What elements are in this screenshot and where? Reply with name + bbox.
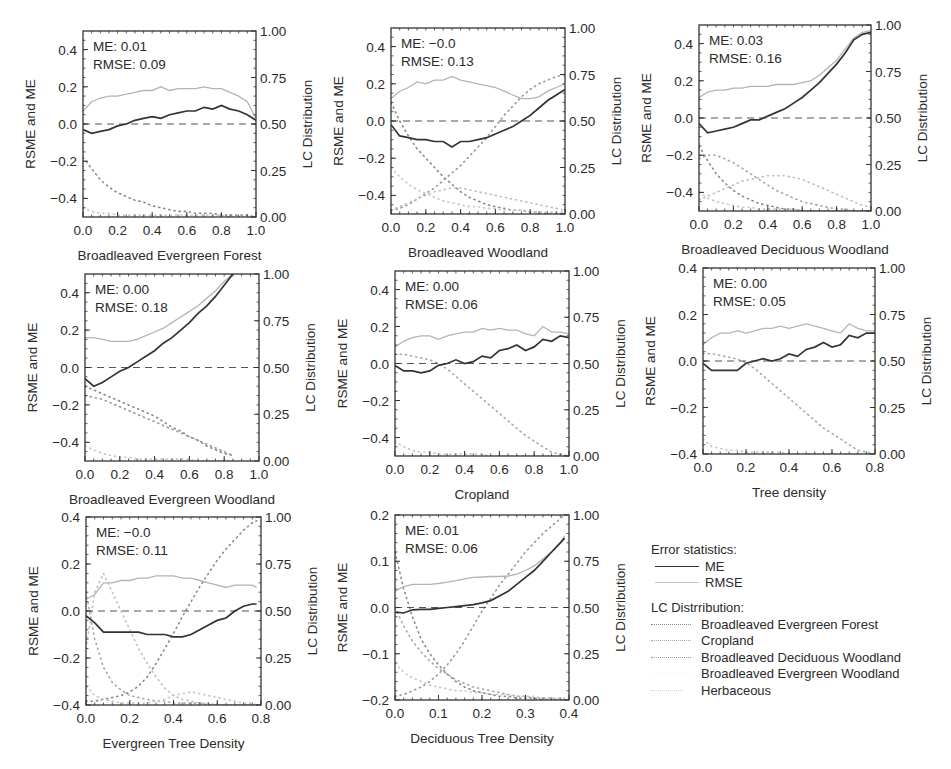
legend-item-lc-evergreen-forest: Broadleaved Evergreen Forest	[651, 616, 951, 633]
lc-distribution-line	[395, 354, 569, 456]
legend-label-lc: Cropland	[701, 632, 754, 649]
x-tick-label: 0.0	[690, 217, 709, 232]
y-tick-label: −0.2	[362, 394, 389, 409]
rmse-annotation: RMSE: 0.05	[713, 294, 786, 309]
x-tick-label: 0.4	[455, 462, 474, 477]
me-annotation: ME: 0.00	[713, 276, 767, 291]
x-tick-label: 0.0	[386, 462, 405, 477]
rmse-line	[703, 324, 875, 345]
y-tick-label: 0.2	[678, 308, 697, 323]
y-tick-label: 0.4	[366, 40, 385, 55]
y2-tick-label: 0.00	[265, 698, 291, 713]
legend-item-rmse: RMSE	[651, 575, 951, 592]
chart-panel-p5: 0.00.20.40.60.81.00.40.20.0−0.2−0.41.000…	[335, 264, 628, 502]
me-annotation: ME: 0.03	[709, 33, 763, 48]
x-tick-label: 0.4	[758, 217, 777, 232]
lc-distribution-line	[699, 176, 871, 208]
y-axis-label: RSME and ME	[331, 76, 346, 165]
x-tick-label: 0.6	[208, 711, 227, 726]
y-tick-label: 0.4	[60, 286, 79, 301]
x-tick-label: 0.4	[145, 467, 164, 482]
y-axis-label: RSME and ME	[639, 73, 654, 162]
lc-distribution-line	[699, 155, 871, 211]
y-tick-label: 0.0	[370, 357, 389, 372]
me-annotation: ME: 0.01	[405, 523, 459, 538]
x-tick-label: 0.6	[823, 460, 842, 475]
x-axis-label: Cropland	[455, 487, 510, 502]
rmse-line	[86, 576, 257, 600]
x-axis-label: Broadleaved Evergreen Woodland	[69, 492, 275, 507]
x-tick-label: 0.8	[866, 460, 885, 475]
y2-tick-label: 0.25	[573, 647, 599, 662]
plot-area	[703, 324, 875, 454]
y-tick-label: −0.4	[670, 447, 697, 462]
y-tick-label: 0.2	[370, 508, 389, 523]
legend-label-lc: Broadleaved Evergreen Forest	[701, 616, 878, 633]
y-tick-label: −0.2	[666, 148, 693, 163]
y-tick-label: 0.2	[60, 323, 79, 338]
lc-distribution-line	[699, 192, 871, 211]
y2-tick-label: 1.00	[573, 264, 599, 279]
me-annotation: ME: −0.0	[96, 525, 150, 540]
y2-tick-label: 0.50	[879, 354, 905, 369]
y-tick-label: 0.0	[366, 114, 385, 129]
lc-distribution-line	[391, 102, 565, 214]
chart-panel-p1: 0.00.20.40.60.81.00.40.20.0−0.2−0.41.000…	[23, 24, 315, 263]
legend-item-me: ME	[651, 558, 951, 575]
y2-tick-label: 0.25	[569, 161, 595, 176]
chart-panel-p3: 0.00.20.40.60.81.00.40.20.0−0.2−0.41.000…	[639, 18, 930, 257]
chart-panel-p4: 0.00.20.40.60.81.00.40.20.0−0.2−0.41.000…	[25, 267, 318, 507]
me-annotation: ME: 0.00	[95, 282, 149, 297]
me-line-swatch	[655, 566, 699, 567]
y2-tick-label: 0.00	[875, 204, 901, 219]
y2-tick-label: 0.25	[263, 407, 289, 422]
y2-tick-label: 0.75	[879, 308, 905, 323]
y-axis-label: RSME and ME	[335, 319, 350, 408]
rmse-annotation: RMSE: 0.06	[405, 541, 478, 556]
y-tick-label: −0.4	[50, 191, 77, 206]
legend-item-lc-cropland: Cropland	[651, 633, 951, 650]
figure: 0.00.20.40.60.81.00.40.20.0−0.2−0.41.000…	[0, 0, 951, 769]
y-tick-label: 0.1	[370, 554, 389, 569]
y-axis-label: RSME and ME	[335, 563, 350, 652]
y2-tick-label: 1.00	[875, 18, 901, 33]
y-axis-label: RSME and ME	[25, 323, 40, 412]
x-tick-label: 0.4	[451, 220, 470, 235]
y-tick-label: 0.0	[678, 354, 697, 369]
y2-tick-label: 0.25	[260, 164, 286, 179]
y2-tick-label: 0.75	[573, 310, 599, 325]
lc-distribution-line	[86, 592, 257, 705]
x-tick-label: 0.2	[724, 217, 743, 232]
y2-tick-label: 1.00	[569, 21, 595, 36]
y2-axis-label: LC Distribution	[609, 77, 624, 166]
chart-panel-p2: 0.00.20.40.60.81.00.40.20.0−0.2−0.41.000…	[331, 21, 624, 260]
x-tick-label: 0.4	[143, 223, 162, 238]
y2-tick-label: 0.75	[569, 68, 595, 83]
lc-distribution-line	[86, 573, 257, 705]
rmse-line	[395, 327, 569, 347]
x-tick-label: 0.4	[164, 711, 183, 726]
y-tick-label: −0.4	[362, 431, 389, 446]
y2-axis-label: LC Distribution	[613, 563, 628, 652]
lc-distribution-line	[83, 158, 256, 218]
x-tick-label: 0.6	[177, 223, 196, 238]
y-axis-label: RSME and ME	[643, 316, 658, 405]
y2-axis-label: LC Distribution	[919, 317, 934, 406]
y-tick-label: 0.4	[674, 37, 693, 52]
y-tick-label: 0.4	[370, 283, 389, 298]
y2-tick-label: 0.50	[875, 111, 901, 126]
y2-axis-label: LC Distribution	[613, 319, 628, 408]
lc-distribution-line	[391, 75, 565, 211]
y-tick-label: 0.4	[61, 510, 80, 525]
y-tick-label: −0.4	[53, 698, 80, 713]
lc-distribution-line	[703, 354, 875, 454]
x-tick-label: 1.0	[556, 220, 575, 235]
rmse-line	[83, 87, 256, 119]
x-tick-label: 0.0	[77, 711, 96, 726]
y-tick-label: 0.4	[678, 261, 697, 276]
y2-tick-label: 0.00	[879, 447, 905, 462]
y-tick-label: 0.0	[61, 604, 80, 619]
y2-tick-label: 0.50	[573, 357, 599, 372]
y-tick-label: −0.2	[358, 151, 385, 166]
rmse-annotation: RMSE: 0.13	[401, 54, 474, 69]
